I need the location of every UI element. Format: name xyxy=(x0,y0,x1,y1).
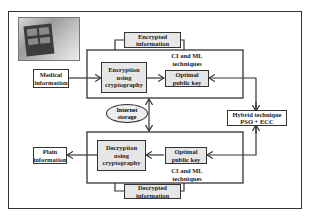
medical-tablet-photo xyxy=(18,17,80,61)
internet-storage-ellipse: Internet storage xyxy=(106,104,148,123)
decryption-box: Decryption using cryptography xyxy=(97,140,146,171)
tablet-device-icon xyxy=(24,24,55,57)
hybrid-technique-box: Hybrid technique PSO + ECC xyxy=(227,110,287,126)
optimal-public-key-top-box: Optimal public key xyxy=(165,70,209,87)
ci-ml-label-bottom: CI and ML techniques xyxy=(166,167,208,182)
encryption-box: Encryption using cryptography xyxy=(101,62,147,93)
decrypted-information-box: Decrypted information xyxy=(124,184,181,199)
ci-ml-label-top: CI and ML techniques xyxy=(166,52,208,67)
medical-information-box: Medical information xyxy=(33,69,69,88)
encrypted-information-box: Encrypted information xyxy=(124,32,181,48)
plain-information-box: Plain information xyxy=(33,147,67,164)
optimal-public-key-bottom-box: Optimal public key xyxy=(165,147,207,164)
